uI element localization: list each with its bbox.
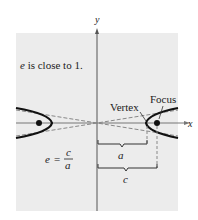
c-label: c [123, 173, 128, 185]
left-focus-point [36, 120, 42, 126]
hyperbola-diagram: y x Vertex Focus e is close to 1. a c e … [0, 0, 198, 220]
formula-numerator: c [66, 146, 71, 158]
formula-lhs: e [45, 153, 50, 165]
focus-label: Focus [150, 93, 176, 105]
formula-eq: = [54, 153, 60, 165]
caption: e is close to 1. [20, 59, 83, 71]
y-axis-arrow-icon [95, 28, 99, 34]
x-axis-label: x [187, 118, 193, 129]
y-axis-label: y [94, 14, 100, 25]
right-focus-point [154, 120, 160, 126]
formula-denominator: a [65, 159, 71, 171]
vertex-label: Vertex [110, 101, 139, 113]
a-label: a [118, 149, 124, 161]
